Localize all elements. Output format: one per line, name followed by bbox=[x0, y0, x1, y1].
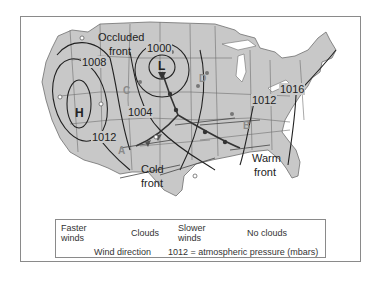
isobar-label-1012-west: 1012 bbox=[91, 131, 117, 143]
high-pressure-symbol: H bbox=[75, 107, 84, 119]
station-letter-a: A bbox=[118, 145, 125, 156]
low-pressure-symbol: L bbox=[158, 60, 165, 72]
legend-faster-winds-line2: winds bbox=[61, 233, 84, 243]
isobar-label-1000: 1000 bbox=[146, 42, 172, 54]
isobar-label-1016: 1016 bbox=[279, 83, 305, 95]
legend-slower-winds-line1: Slower bbox=[178, 223, 206, 233]
occluded-front-label-line1: Occluded bbox=[98, 31, 144, 43]
station-letter-d: D bbox=[199, 73, 206, 84]
station-letter-c: C bbox=[123, 85, 130, 96]
isobar-label-1004: 1004 bbox=[127, 106, 153, 118]
cold-front-label-line2: front bbox=[141, 177, 163, 189]
isobar-label-1008: 1008 bbox=[81, 56, 107, 68]
warm-front-label-line1: Warm bbox=[252, 152, 281, 164]
isobar-label-1012-east: 1012 bbox=[251, 94, 277, 106]
legend-slower-winds-line2: winds bbox=[178, 233, 201, 243]
warm-front-label-line2: front bbox=[254, 166, 276, 178]
occluded-front-label-line2: front bbox=[109, 45, 131, 57]
legend-box: Faster winds Clouds Slower winds No clou… bbox=[55, 219, 326, 258]
cold-front-label-line1: Cold bbox=[141, 163, 164, 175]
legend-clouds-label: Clouds bbox=[131, 228, 159, 238]
legend-wind-direction-label: Wind direction bbox=[94, 247, 151, 257]
us-landmass bbox=[42, 22, 336, 196]
legend-no-clouds-label: No clouds bbox=[247, 228, 287, 238]
station-letter-b: B bbox=[243, 120, 250, 131]
legend-pressure-note: 1012 = atmospheric pressure (mbars) bbox=[168, 247, 318, 257]
legend-faster-winds-line1: Faster bbox=[61, 223, 87, 233]
